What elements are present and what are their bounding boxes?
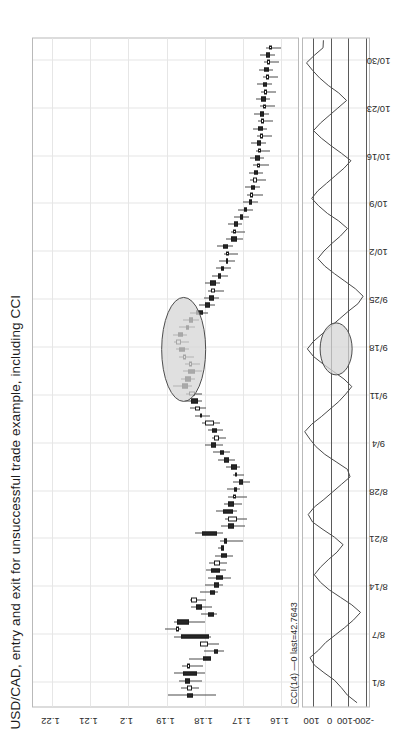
price-panel — [32, 37, 299, 707]
price-annotation-layer — [33, 36, 300, 706]
price-axis-tick: 1.22 — [41, 716, 60, 727]
date-axis-tick: 9/25 — [369, 295, 388, 306]
date-axis-tick: 8/1 — [372, 678, 385, 689]
date-axis-tick: 8/28 — [369, 486, 388, 497]
cci-legend: CCI(14) —0 last=42.7643 — [289, 602, 299, 704]
cci-axis-tick: -200 — [355, 716, 374, 727]
date-axis-tick: 10/9 — [369, 199, 388, 210]
price-axis-tick: 1.21 — [79, 716, 98, 727]
cci-axis-tick: -100 — [337, 716, 356, 727]
date-axis-tick: 10/2 — [369, 247, 388, 258]
entry-exit-highlight-cci — [320, 322, 352, 374]
entry-exit-highlight-price — [162, 297, 206, 401]
page-title: USD/CAD, entry and exit for unsuccessful… — [8, 294, 23, 729]
price-axis-tick: 1.2 — [120, 716, 133, 727]
cci-axis-tick: 0 — [327, 716, 332, 727]
date-axis-tick: 9/11 — [370, 390, 388, 401]
date-axis-tick: 9/4 — [372, 438, 385, 449]
chart-stage: USD/CAD, entry and exit for unsuccessful… — [0, 0, 400, 735]
price-axis-tick: 1.18 — [194, 716, 213, 727]
price-axis-tick: 1.19 — [156, 716, 175, 727]
date-axis-tick: 10/23 — [367, 103, 391, 114]
date-axis-tick: 10/30 — [367, 55, 391, 66]
chart-figure: USD/CAD, entry and exit for unsuccessful… — [0, 0, 400, 735]
cci-panel — [302, 37, 370, 707]
date-axis-tick: 10/16 — [367, 151, 391, 162]
date-axis-tick: 8/21 — [369, 534, 388, 545]
cci-axis-tick: 100 — [304, 716, 320, 727]
cci-annotation-layer — [303, 36, 371, 706]
date-axis-tick: 8/14 — [369, 582, 388, 593]
price-axis-tick: 1.17 — [232, 716, 251, 727]
price-axis-tick: 1.16 — [270, 716, 289, 727]
date-axis-tick: 9/18 — [369, 343, 388, 354]
date-axis-tick: 8/7 — [372, 630, 385, 641]
